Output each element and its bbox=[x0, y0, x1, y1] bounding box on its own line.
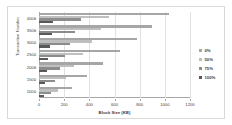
x-tick-mark bbox=[64, 99, 65, 101]
x-tick-label: 0 bbox=[27, 102, 51, 107]
bar-group bbox=[39, 12, 190, 24]
bar bbox=[39, 95, 44, 97]
legend-swatch-icon bbox=[199, 67, 202, 70]
y-tick-label: 1500 bbox=[2, 77, 36, 82]
bar-group bbox=[39, 24, 190, 36]
legend-label: 75% bbox=[204, 66, 213, 71]
legend-label: 50% bbox=[204, 57, 213, 62]
bar bbox=[39, 33, 52, 35]
legend-item[interactable]: 50% bbox=[199, 55, 229, 64]
y-tick-label: 2000 bbox=[2, 65, 36, 70]
legend-swatch-icon bbox=[199, 58, 202, 61]
y-tick-label: 1000 bbox=[2, 89, 36, 94]
y-tick-label: 2500 bbox=[2, 52, 36, 57]
x-tick-label: 1000 bbox=[153, 102, 177, 107]
chart-figure: Transaction Number 100015002000250030003… bbox=[0, 0, 232, 125]
y-tick-label: 3500 bbox=[2, 28, 36, 33]
x-tick-label: 400 bbox=[77, 102, 101, 107]
y-tick-mark bbox=[34, 30, 36, 31]
bar-group bbox=[39, 49, 190, 61]
y-tick-mark bbox=[34, 55, 36, 56]
gridline bbox=[190, 12, 191, 98]
x-tick-label: 800 bbox=[128, 102, 152, 107]
y-tick-mark bbox=[34, 18, 36, 19]
legend-swatch-icon bbox=[199, 49, 202, 52]
bar bbox=[39, 45, 50, 47]
bar-group bbox=[39, 73, 190, 85]
y-tick-mark bbox=[34, 92, 36, 93]
x-tick-mark bbox=[115, 99, 116, 101]
x-axis-tick-labels: 020040060080010001200 bbox=[39, 99, 190, 109]
y-tick-label: 4000 bbox=[2, 16, 36, 21]
x-tick-mark bbox=[39, 99, 40, 101]
y-axis-tick-labels: 1000150020002500300035004000 bbox=[0, 12, 36, 98]
x-tick-label: 1200 bbox=[178, 102, 202, 107]
chart-legend: 0%50%75%100% bbox=[199, 46, 229, 82]
bar-group bbox=[39, 86, 190, 98]
legend-label: 0% bbox=[204, 48, 210, 53]
y-tick-label: 3000 bbox=[2, 40, 36, 45]
legend-swatch-icon bbox=[199, 76, 202, 79]
x-tick-mark bbox=[165, 99, 166, 101]
bar bbox=[39, 82, 45, 84]
bar bbox=[39, 58, 48, 60]
legend-label: 100% bbox=[204, 75, 215, 80]
x-tick-label: 200 bbox=[52, 102, 76, 107]
y-tick-mark bbox=[34, 80, 36, 81]
bar-group bbox=[39, 61, 190, 73]
bar bbox=[39, 70, 47, 72]
y-tick-mark bbox=[34, 43, 36, 44]
x-axis-title: Block Size (KB) bbox=[39, 110, 190, 115]
legend-item[interactable]: 0% bbox=[199, 46, 229, 55]
legend-item[interactable]: 75% bbox=[199, 64, 229, 73]
x-tick-mark bbox=[89, 99, 90, 101]
y-tick-mark bbox=[34, 67, 36, 68]
bar-group bbox=[39, 37, 190, 49]
x-tick-mark bbox=[190, 99, 191, 101]
x-tick-label: 600 bbox=[103, 102, 127, 107]
x-tick-mark bbox=[140, 99, 141, 101]
legend-item[interactable]: 100% bbox=[199, 73, 229, 82]
plot-area bbox=[39, 12, 190, 98]
bar bbox=[39, 21, 53, 23]
